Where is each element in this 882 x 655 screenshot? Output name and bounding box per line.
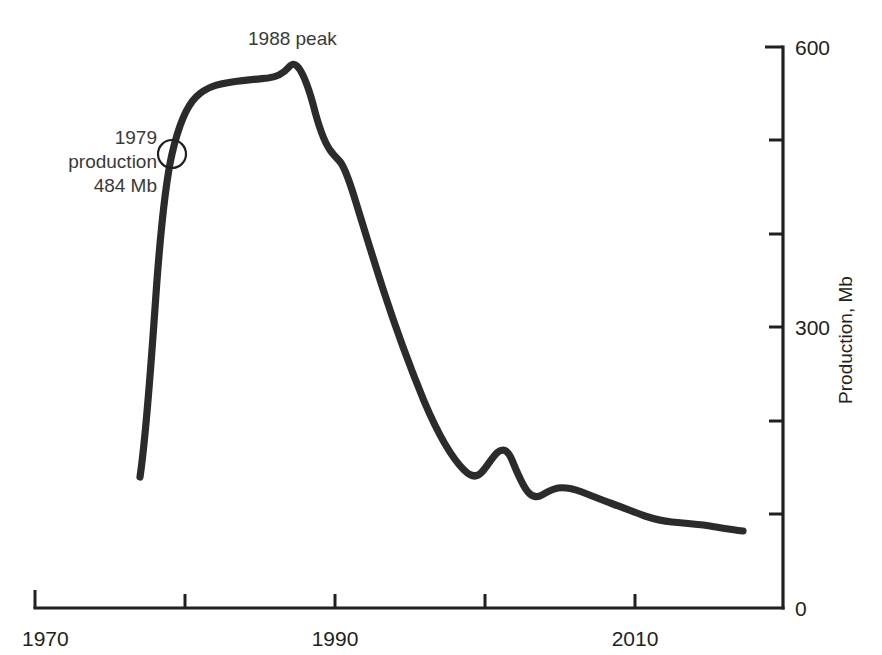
x-tick-label-2010: 2010 [612,627,659,650]
annotation-1979-production: 1979 production 484 Mb [68,127,157,196]
series-production [140,64,743,531]
y-tick-label-300: 300 [795,316,830,339]
annotation-peak-label: 1988 peak [248,28,337,49]
y-tick-label-0: 0 [795,597,807,620]
x-axis [35,590,783,608]
annotation-1979-line1: 1979 [115,127,157,148]
y-axis [765,47,783,608]
annotation-1979-line3: 484 Mb [94,175,157,196]
y-tick-label-600: 600 [795,36,830,59]
x-tick-label-1990: 1990 [312,627,359,650]
annotation-1979-line2: production [68,151,157,172]
production-curve [140,64,743,531]
figure-container: 600 300 0 1970 1990 2010 Production, Mb … [0,0,882,655]
y-axis-title: Production, Mb [835,276,856,404]
x-tick-label-1970: 1970 [22,627,69,650]
production-line-chart: 600 300 0 1970 1990 2010 Production, Mb … [0,0,882,655]
